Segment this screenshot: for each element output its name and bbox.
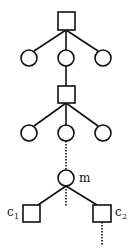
- edge-m-c2: [66, 186, 97, 205]
- label-c1-base: c: [7, 205, 14, 219]
- circle-node-2a: [21, 125, 37, 141]
- edge-sq1-ci1a: [34, 30, 66, 51]
- circle-node-1a: [21, 50, 37, 66]
- circle-node-2b: [58, 125, 74, 141]
- edge-m-c1: [38, 186, 66, 205]
- square-node-2: [58, 86, 75, 103]
- tree-diagram: m c 1 c 2: [0, 0, 135, 251]
- square-node-c1: [23, 205, 40, 222]
- circle-node-1b: [58, 50, 74, 66]
- circle-node-2c: [95, 125, 111, 141]
- square-node-root: [58, 12, 75, 30]
- label-c2-base: c: [115, 205, 122, 219]
- label-c2-sub: 2: [122, 212, 127, 221]
- label-m: m: [79, 171, 91, 185]
- circle-node-m: [58, 170, 74, 186]
- label-c1-sub: 1: [14, 212, 19, 221]
- edge-sq2-ci2a: [34, 103, 66, 126]
- edge-sq2-ci2c: [66, 103, 98, 126]
- circle-node-1c: [95, 50, 111, 66]
- edge-sq1-ci1c: [66, 30, 98, 51]
- square-node-c2: [93, 205, 111, 222]
